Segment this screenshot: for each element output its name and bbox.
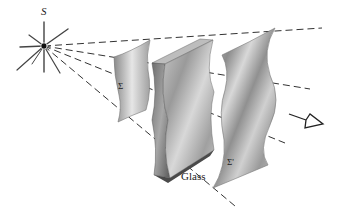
- observer-arrow-icon: [289, 114, 323, 128]
- ray-top: [44, 28, 322, 46]
- sigma-prime-label: Σ': [227, 157, 234, 167]
- glass-slab: [152, 39, 214, 183]
- wavefront-sigma-prime: [213, 28, 276, 188]
- source-star-icon: [17, 22, 68, 73]
- glass-label: Glass: [181, 170, 205, 182]
- source-label: S: [41, 5, 47, 17]
- wavefront-diagram: [0, 0, 337, 215]
- sigma-label: Σ: [118, 81, 123, 91]
